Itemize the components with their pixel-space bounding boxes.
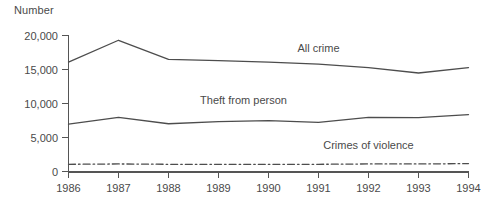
series-line-all-crime [69,40,469,73]
x-tick-label: 1994 [456,182,480,194]
y-tick-label: 15,000 [24,64,58,76]
series-label-all-crime: All crime [297,42,339,54]
series-line-theft-from-person [69,115,469,125]
y-axis-tick-labels: 20,000 15,000 10,000 5,000 0 [24,30,58,178]
x-tick-label: 1991 [306,182,330,194]
y-axis-ticks [62,36,69,172]
chart-container: Number 20,000 15,000 10,000 5,000 0 [0,0,491,202]
series-label-crimes-of-violence: Crimes of violence [323,139,413,151]
x-tick-label: 1988 [156,182,180,194]
y-tick-label: 5,000 [30,132,58,144]
x-tick-label: 1993 [406,182,430,194]
series-label-theft-from-person: Theft from person [200,94,287,106]
y-tick-label: 20,000 [24,30,58,42]
x-tick-label: 1989 [206,182,230,194]
x-tick-label: 1990 [256,182,280,194]
series-line-crimes-of-violence [69,164,469,165]
y-axis: 20,000 15,000 10,000 5,000 0 [24,30,68,178]
x-tick-label: 1992 [356,182,380,194]
line-chart: 20,000 15,000 10,000 5,000 0 1986 [0,0,491,202]
x-axis-ticks [69,172,469,178]
series-labels: All crime Theft from person Crimes of vi… [200,42,414,151]
x-tick-label: 1986 [56,182,80,194]
x-axis-tick-labels: 1986 1987 1988 1989 1990 1991 1992 1993 … [56,182,480,194]
x-tick-label: 1987 [106,182,130,194]
x-axis: 1986 1987 1988 1989 1990 1991 1992 1993 … [56,172,480,194]
y-tick-label: 10,000 [24,98,58,110]
y-tick-label: 0 [52,166,58,178]
